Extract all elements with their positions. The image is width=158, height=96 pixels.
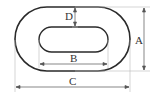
inner-link-opening	[39, 27, 108, 52]
extension-lines	[15, 7, 150, 92]
dimension-label-a: A	[135, 34, 143, 46]
dimension-label-d: D	[65, 10, 73, 22]
dimension-d	[74, 8, 77, 26]
chain-link-diagram: A B C D	[0, 0, 158, 96]
dimension-label-c: C	[69, 75, 76, 87]
dimension-label-b: B	[70, 52, 77, 64]
